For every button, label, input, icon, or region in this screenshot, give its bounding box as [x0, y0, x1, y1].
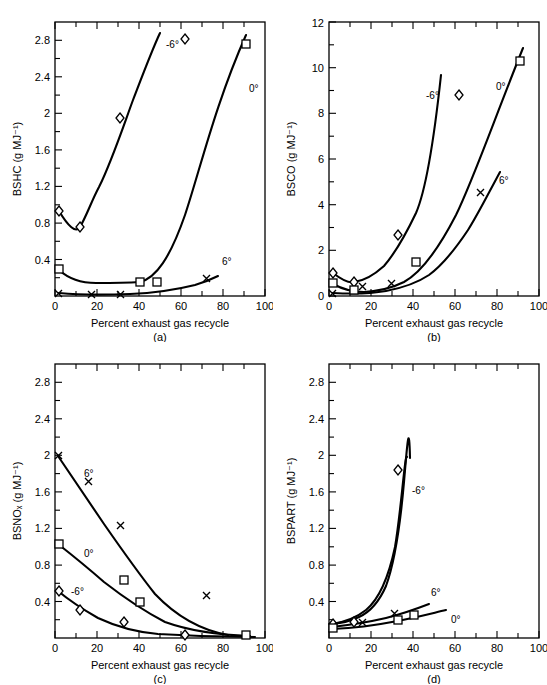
- caption-d: (d): [427, 673, 440, 684]
- x-axis-title-c: Percent exhaust gas recycle: [91, 659, 229, 671]
- x-tick-label: 20: [365, 300, 377, 312]
- x-tick-label: 80: [491, 642, 503, 654]
- y-tick-label: 2: [318, 244, 324, 256]
- y-tick-label: 2.8: [309, 376, 324, 388]
- curve-0deg-a: [59, 35, 246, 283]
- curve-label-6deg-d: 6°: [431, 587, 441, 598]
- y-tick-label: 1.2: [35, 180, 50, 192]
- markers-minus6-d: [329, 465, 402, 629]
- caption-b: (b): [427, 331, 440, 342]
- y-axis-title-c: BSNOₓ (g MJ⁻¹): [11, 462, 23, 541]
- x-axis-title-b: Percent exhaust gas recycle: [365, 317, 503, 329]
- y-axis-title-b: BSCO (g MJ⁻¹): [285, 121, 297, 196]
- y-axis-title-a: BSHC (g MJ⁻¹): [11, 122, 23, 196]
- y-tick-label: 1.6: [309, 486, 324, 498]
- plot-frame-b: [329, 22, 539, 296]
- y-tick-label: 2.4: [309, 413, 324, 425]
- x-tick-label: 0: [326, 300, 332, 312]
- curve-label-0deg-d: 0°: [451, 614, 461, 625]
- caption-a: (a): [153, 331, 166, 342]
- y-tick-label: 0.4: [309, 596, 324, 608]
- markers-0deg-a: [55, 40, 250, 286]
- figure-four-panel-emissions: 0.4 0.8 1.2 1.6 2 2.4 2.8: [0, 0, 547, 685]
- x-axis-title-d: Percent exhaust gas recycle: [365, 659, 503, 671]
- y-tick-label: 0.8: [35, 217, 50, 229]
- y-tick-label: 2.8: [35, 34, 50, 46]
- y-tick-label: 1.6: [35, 486, 50, 498]
- caption-c: (c): [154, 673, 167, 684]
- x-tick-label: 0: [52, 300, 58, 312]
- x-axis-labels-b: 0 20 40 60 80 100: [326, 300, 547, 312]
- x-axis-labels-d: 0 20 40 60 80 100: [326, 642, 547, 654]
- x-tick-label: 0: [52, 642, 58, 654]
- x-tick-label: 60: [175, 300, 187, 312]
- curve-label-minus6-a: -6°: [166, 39, 179, 50]
- x-tick-label: 100: [256, 642, 273, 654]
- curve-minus6-b: [333, 75, 441, 282]
- x-tick-label: 0: [326, 642, 332, 654]
- curve-minus6-d-shape: [332, 457, 407, 624]
- markers-6deg-c: [55, 452, 210, 599]
- curve-label-0deg-b: 0°: [496, 81, 506, 92]
- y-tick-label: 0.8: [35, 559, 50, 571]
- x-tick-label: 60: [175, 642, 187, 654]
- x-tick-label: 100: [530, 642, 547, 654]
- curve-label-6deg-b: 6°: [499, 175, 509, 186]
- y-tick-label: 0.4: [35, 596, 50, 608]
- x-axis-labels-a: 0 20 40 60 80 100: [52, 300, 273, 312]
- y-tick-label: 12: [312, 17, 324, 29]
- y-tick-label: 1.6: [35, 144, 50, 156]
- x-tick-label: 100: [256, 300, 273, 312]
- curve-minus6-a: [59, 33, 160, 230]
- y-tick-label: 2: [318, 449, 324, 461]
- y-tick-label: 2.8: [35, 376, 50, 388]
- y-tick-label: 2: [44, 107, 50, 119]
- x-tick-label: 40: [407, 300, 419, 312]
- x-tick-label: 20: [91, 642, 103, 654]
- x-tick-label: 40: [407, 642, 419, 654]
- panel-d: 0.4 0.8 1.2 1.6 2 2.4 2.8: [274, 342, 547, 684]
- x-tick-label: 20: [365, 642, 377, 654]
- x-tick-label: 40: [133, 300, 145, 312]
- y-axis-ticks-d: [329, 382, 336, 619]
- y-axis-labels-b: 0 2 4 6 8 10 12: [312, 17, 324, 302]
- y-tick-label: 0: [318, 290, 324, 302]
- x-tick-label: 80: [491, 300, 503, 312]
- curve-label-0deg-a: 0°: [249, 83, 259, 94]
- y-tick-label: 6: [318, 153, 324, 165]
- y-axis-ticks-c: [55, 382, 62, 619]
- curve-label-6deg-a: 6°: [222, 256, 232, 267]
- y-tick-label: 4: [318, 199, 324, 211]
- y-tick-label: 10: [312, 62, 324, 74]
- x-tick-label: 100: [530, 300, 547, 312]
- x-tick-label: 20: [91, 300, 103, 312]
- y-axis-ticks-a: [55, 40, 62, 277]
- panel-a: 0.4 0.8 1.2 1.6 2 2.4 2.8: [0, 0, 273, 342]
- curve-label-0deg-c: 0°: [84, 548, 94, 559]
- y-tick-label: 0.4: [35, 254, 50, 266]
- y-axis-title-d: BSPART (g MJ⁻¹): [285, 458, 297, 545]
- x-tick-label: 80: [217, 300, 229, 312]
- curve-label-minus6-b: -6°: [426, 90, 439, 101]
- y-tick-label: 1.2: [309, 522, 324, 534]
- curve-minus6-c: [58, 591, 255, 637]
- panel-b: 0 2 4 6 8 10 12: [274, 0, 547, 342]
- y-tick-label: 8: [318, 107, 324, 119]
- y-tick-label: 2: [44, 449, 50, 461]
- x-axis-ticks-b: [329, 22, 539, 296]
- x-tick-label: 60: [449, 300, 461, 312]
- curve-label-6deg-c: 6°: [84, 468, 94, 479]
- x-tick-label: 60: [449, 642, 461, 654]
- x-axis-ticks-c: [55, 364, 265, 638]
- curve-label-minus6-d: -6°: [412, 485, 425, 496]
- y-tick-label: 1.2: [35, 522, 50, 534]
- x-tick-label: 80: [217, 642, 229, 654]
- x-axis-labels-c: 0 20 40 60 80 100: [52, 642, 273, 654]
- curve-label-minus6-c: -6°: [71, 586, 84, 597]
- panel-c: 0.4 0.8 1.2 1.6 2 2.4 2.8: [0, 342, 273, 684]
- y-axis-labels-a: 0.4 0.8 1.2 1.6 2 2.4 2.8: [35, 34, 50, 265]
- x-axis-title-a: Percent exhaust gas recycle: [91, 317, 229, 329]
- x-tick-label: 40: [133, 642, 145, 654]
- y-tick-label: 2.4: [35, 71, 50, 83]
- y-tick-label: 2.4: [35, 413, 50, 425]
